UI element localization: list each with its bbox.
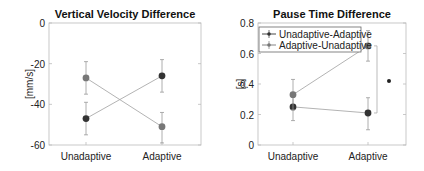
chart-title: Vertical Velocity Difference: [55, 8, 196, 20]
pause-time-chart: Pause Time Difference0.80.60.40.20[s]Una…: [235, 8, 406, 162]
legend: Unadaptive-AdaptiveAdaptive-Unadaptive: [259, 27, 372, 52]
significance-marker: [387, 79, 391, 83]
y-tick-label: -40: [31, 99, 46, 110]
chart-title: Pause Time Difference: [273, 8, 391, 20]
x-tick-label: Adaptive: [349, 151, 388, 162]
axes-box: [49, 23, 201, 145]
vertical-velocity-chart: Vertical Velocity Difference0-20-40-60[m…: [24, 8, 201, 162]
x-tick-label: Unadaptive: [61, 151, 112, 162]
y-tick-label: 0.8: [240, 18, 254, 29]
series-unadaptive-adaptive: [290, 93, 372, 130]
data-point: [83, 75, 90, 82]
y-tick-label: 0: [39, 18, 45, 29]
y-tick-label: 0.2: [240, 110, 254, 121]
y-tick-label: 0.6: [240, 49, 254, 60]
significance-bracket: [374, 46, 391, 113]
legend-entry: Adaptive-Unadaptive: [279, 40, 372, 51]
y-tick-label: 0: [248, 140, 254, 151]
data-point: [159, 123, 166, 130]
legend-entry: Unadaptive-Adaptive: [279, 29, 372, 40]
chart-figure: Vertical Velocity Difference0-20-40-60[m…: [0, 0, 424, 171]
y-axis-label: [s]: [235, 79, 246, 90]
y-tick-label: -60: [31, 140, 46, 151]
series-unadaptive-adaptive: [83, 60, 166, 135]
x-tick-label: Adaptive: [143, 151, 182, 162]
series-adaptive-unadaptive: [83, 62, 166, 143]
data-point: [159, 72, 166, 79]
data-point: [365, 110, 372, 117]
data-point: [290, 91, 297, 98]
y-axis-label: [mm/s]: [24, 69, 35, 99]
data-point: [83, 115, 90, 122]
x-tick-label: Unadaptive: [268, 151, 319, 162]
y-tick-label: -20: [31, 59, 46, 70]
